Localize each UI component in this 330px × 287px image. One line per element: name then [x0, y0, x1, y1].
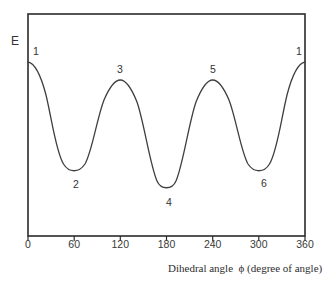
point-label-5: 5 — [203, 63, 223, 75]
y-axis-label: E — [11, 34, 19, 48]
x-tick-label-240: 240 — [193, 238, 233, 250]
x-tick-label-0: 0 — [8, 238, 48, 250]
point-label-3: 3 — [110, 63, 130, 75]
point-label-2: 2 — [66, 178, 86, 190]
point-label-1-left: 1 — [26, 45, 46, 57]
energy-vs-dihedral-angle-figure: E 0 60 120 180 240 300 360 1 2 3 4 5 6 1… — [0, 0, 330, 287]
x-tick-label-360: 360 — [285, 238, 325, 250]
x-tick-label-300: 300 — [239, 238, 279, 250]
point-label-6: 6 — [254, 177, 274, 189]
point-label-4: 4 — [159, 196, 179, 208]
x-tick-label-60: 60 — [54, 238, 94, 250]
x-axis-title: Dihedral angle ϕ (degree of angle) — [168, 261, 322, 275]
point-label-1-right: 1 — [289, 45, 309, 57]
x-tick-label-120: 120 — [100, 238, 140, 250]
x-tick-label-180: 180 — [147, 238, 187, 250]
